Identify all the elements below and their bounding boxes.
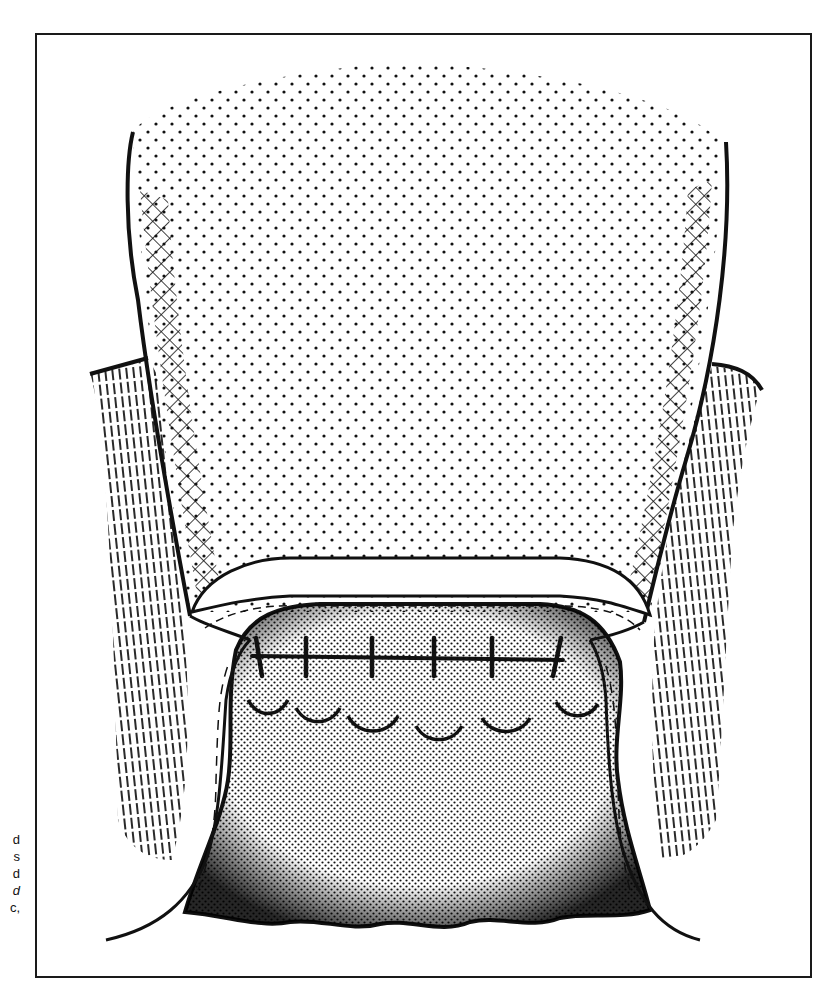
caption-fragment: d <box>0 832 20 847</box>
lower-tissue-mass <box>185 604 650 927</box>
upper-flap <box>128 62 728 622</box>
caption-fragment: c, <box>0 900 20 915</box>
caption-fragment: d <box>0 883 20 898</box>
surgical-illustration <box>0 0 829 1003</box>
figure-stage: dsddc, <box>0 0 829 1003</box>
caption-fragment: d <box>0 866 20 881</box>
caption-fragment: s <box>0 849 20 864</box>
